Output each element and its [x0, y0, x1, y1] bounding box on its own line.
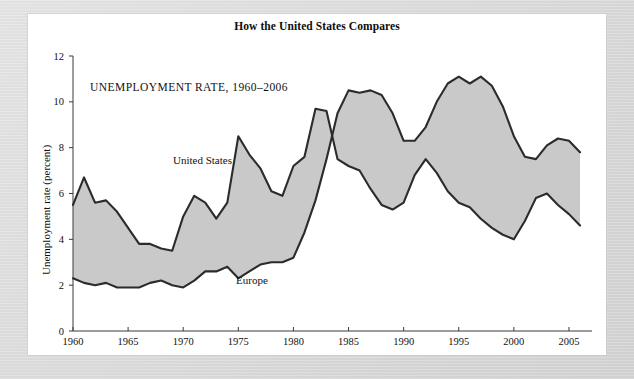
y-tick-label: 4 [59, 234, 65, 245]
x-tick-label: 1985 [338, 336, 359, 347]
x-tick-label: 1965 [118, 336, 139, 347]
x-tick-label: 1960 [63, 336, 84, 347]
y-tick-label: 0 [59, 326, 64, 337]
x-tick-label: 1975 [228, 336, 249, 347]
y-tick-label: 8 [59, 142, 64, 153]
x-tick-label: 2005 [558, 336, 579, 347]
y-tick-label: 10 [54, 96, 65, 107]
x-axis-ticks: 1960196519701975198019851990199520002005 [63, 327, 580, 347]
figure-panel: How the United States Compares 024681012… [28, 14, 606, 355]
chart-caption: UNEMPLOYMENT RATE, 1960–2006 [90, 81, 288, 94]
y-axis-ticks: 024681012 [54, 51, 74, 337]
series-label-europe: Europe [236, 274, 268, 286]
x-tick-label: 1990 [393, 336, 414, 347]
y-tick-label: 2 [59, 280, 64, 291]
y-tick-label: 12 [54, 51, 65, 62]
x-tick-label: 1970 [173, 336, 194, 347]
y-axis-title: Unemployment rate (percent) [40, 145, 53, 275]
page-background: How the United States Compares 024681012… [0, 0, 634, 379]
x-tick-label: 1980 [283, 336, 304, 347]
x-tick-label: 1995 [448, 336, 469, 347]
series-label-united-states: United States [173, 154, 232, 166]
unemployment-rate-line-chart: 024681012 196019651970197519801985199019… [28, 14, 606, 355]
y-tick-label: 6 [59, 188, 64, 199]
x-tick-label: 2000 [503, 336, 524, 347]
chart-plot-area: 024681012 196019651970197519801985199019… [28, 14, 606, 355]
